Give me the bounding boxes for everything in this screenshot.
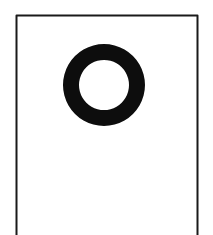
diagram-canvas [0, 0, 213, 235]
